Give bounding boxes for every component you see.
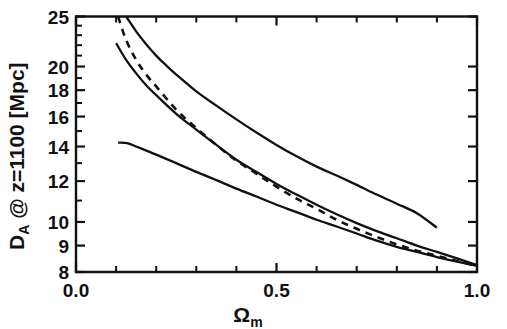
data-curve-middle-solid <box>116 43 477 265</box>
y-axis-label-main: D <box>5 235 28 250</box>
y-tick-label: 25 <box>48 7 70 28</box>
svg-text:Ωm: Ωm <box>233 303 262 329</box>
y-tick-label: 12 <box>48 171 69 192</box>
y-tick-label: 10 <box>48 212 69 233</box>
y-axis-label: DA @ z=1100 [Mpc] <box>5 62 32 250</box>
data-curve-upper-solid <box>126 17 437 228</box>
y-tick-label: 14 <box>48 137 70 158</box>
y-tick-label: 16 <box>48 107 69 128</box>
chart-figure: 89101214161820250.00.51.0 DA @ z=1100 [M… <box>0 0 507 329</box>
y-axis-label-rest: @ z=1100 [Mpc] <box>5 62 28 224</box>
x-tick-label: 0.5 <box>263 280 290 301</box>
svg-text:DA @ z=1100 [Mpc]: DA @ z=1100 [Mpc] <box>5 62 32 250</box>
x-axis-label: Ωm <box>233 303 262 329</box>
y-tick-label: 20 <box>48 57 69 78</box>
y-tick-label: 9 <box>58 236 69 257</box>
x-axis-label-subscript: m <box>250 314 262 329</box>
tick-label-group: 89101214161820250.00.51.0 <box>48 7 490 302</box>
x-tick-label: 0.0 <box>63 280 89 301</box>
curve-group <box>116 17 477 266</box>
angular-diameter-distance-plot: 89101214161820250.00.51.0 DA @ z=1100 [M… <box>0 0 507 329</box>
x-tick-label: 1.0 <box>464 280 490 301</box>
y-axis-label-subscript: A <box>16 225 32 235</box>
x-axis-label-main: Ω <box>233 303 250 326</box>
y-tick-label: 18 <box>48 80 69 101</box>
data-curve-dashed <box>118 17 477 266</box>
